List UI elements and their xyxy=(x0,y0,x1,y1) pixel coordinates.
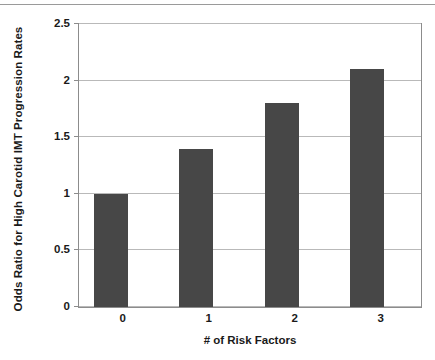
x-label-slot: 0 xyxy=(78,312,164,324)
bar-slot xyxy=(336,24,422,307)
x-axis-tick-label: 1 xyxy=(164,312,250,324)
bar xyxy=(265,103,299,307)
bar xyxy=(94,194,128,307)
bar xyxy=(350,69,384,307)
x-axis-tick-label: 0 xyxy=(78,312,164,324)
x-axis-tick-label: 2 xyxy=(250,312,336,324)
bar-slot xyxy=(79,24,165,307)
bar-slot xyxy=(250,24,336,307)
x-label-slot: 3 xyxy=(336,312,422,324)
y-axis-title: Odds Ratio for High Carotid IMT Progress… xyxy=(9,14,27,324)
x-label-slot: 2 xyxy=(250,312,336,324)
bar xyxy=(179,149,213,307)
x-axis-title: # of Risk Factors xyxy=(78,334,422,346)
x-axis-tick-labels: 0123 xyxy=(78,312,422,324)
y-axis-tick-label: 1 xyxy=(64,187,70,199)
bar-slot xyxy=(165,24,251,307)
x-label-slot: 1 xyxy=(164,312,250,324)
x-axis-tick-label: 3 xyxy=(336,312,422,324)
y-axis-tick-label: 2 xyxy=(64,74,70,86)
y-axis-tick-label: 0 xyxy=(64,300,70,312)
y-axis-tick-label: 1.5 xyxy=(54,130,70,142)
bar-chart-figure: Odds Ratio for High Carotid IMT Progress… xyxy=(0,0,435,360)
y-axis-tick-label: 2.5 xyxy=(54,17,70,29)
plot-area: 00.511.522.5 xyxy=(78,23,422,308)
y-axis-tick-label: 0.5 xyxy=(54,243,70,255)
bars-group xyxy=(79,24,421,307)
